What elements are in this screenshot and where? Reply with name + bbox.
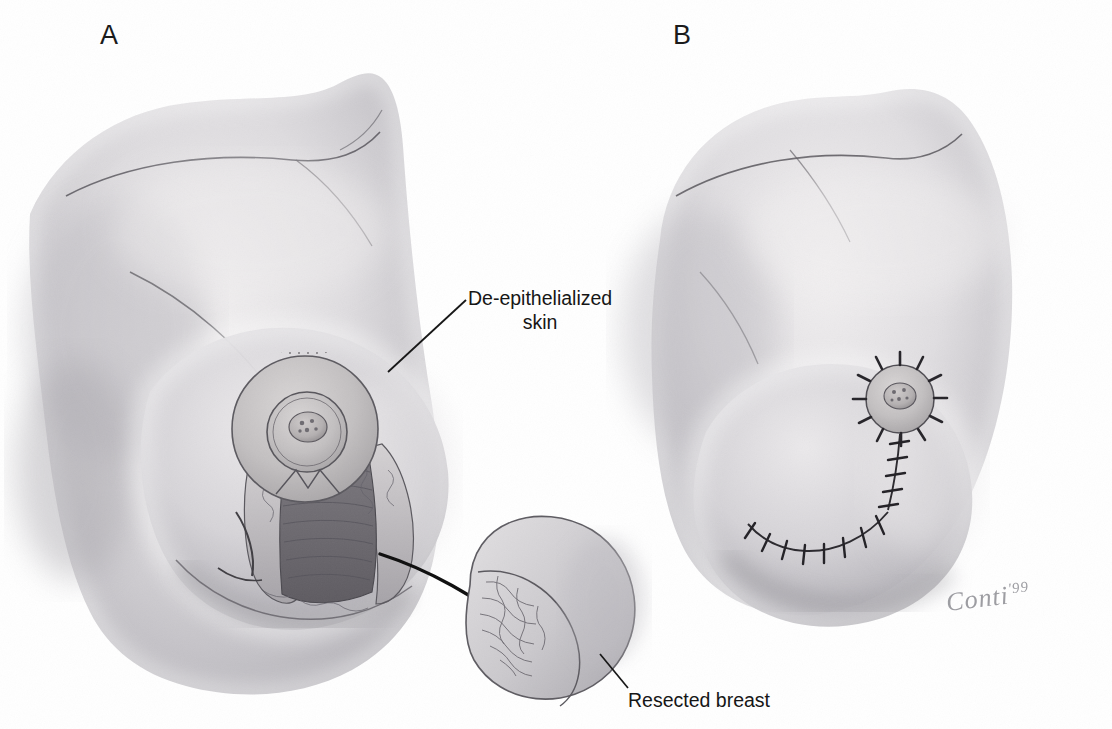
panel-b-grain — [560, 0, 1112, 729]
label-de-epithelialized-line2: skin — [468, 311, 612, 335]
surgical-illustration-figure: A B De-epithelialized skin Resected brea… — [0, 0, 1112, 729]
panel-a-grain — [0, 0, 560, 729]
panel-a-artwork — [0, 0, 644, 729]
label-de-epithelialized-skin: De-epithelialized skin — [468, 287, 612, 335]
label-resected-breast: Resected breast — [628, 689, 770, 713]
label-de-epithelialized-line1: De-epithelialized — [468, 287, 612, 309]
panel-letter-b: B — [673, 20, 692, 51]
panel-b-artwork — [560, 0, 1112, 729]
artist-signature-name: Conti — [944, 581, 1010, 617]
artist-signature-year: '99 — [1007, 578, 1030, 596]
panel-letter-a: A — [100, 20, 119, 51]
illustration-canvas — [0, 0, 1112, 729]
